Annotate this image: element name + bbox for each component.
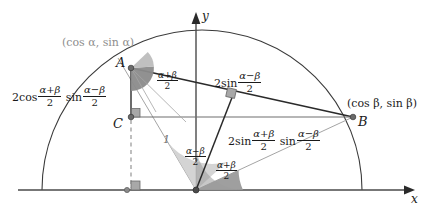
angle-origin-inner-label: α+β2: [215, 160, 238, 182]
segment-AC-length-label: 2cosα+β2 sinα−β2: [12, 84, 107, 108]
perp-frac2: α−β2: [297, 128, 320, 152]
angle-origin-outer-label: α−β2: [184, 146, 207, 168]
angle-origin-outer-num: α−β: [185, 146, 206, 157]
ac-fn2: sin: [66, 91, 82, 104]
x-axis-label: x: [411, 193, 418, 205]
ab-coef: 2: [214, 77, 221, 90]
perpendicular-length-label: 2sinα+β2 sinα−β2: [228, 128, 321, 152]
perp-coef: 2: [228, 135, 235, 148]
ac-fn1: cos: [19, 91, 37, 104]
point-B-label: B: [358, 115, 368, 128]
angle-origin-outer-frac: α−β2: [185, 146, 206, 168]
radius-length-label: 1: [163, 134, 170, 145]
ab-fn1: sin: [221, 77, 237, 90]
ac-coef: 2: [12, 91, 19, 104]
angle-A-frac: α+β2: [157, 70, 178, 92]
perp-frac1: α+β2: [252, 128, 275, 152]
ab-frac1: α−β2: [238, 70, 261, 94]
ac-frac2-num: α−β: [83, 84, 106, 97]
angle-origin-inner-den: 2: [216, 171, 237, 181]
origin-dot: [193, 187, 199, 193]
ac-frac1-den: 2: [38, 97, 61, 109]
ac-frac1: α+β2: [38, 84, 61, 108]
perp-frac2-den: 2: [297, 141, 320, 153]
angle-origin-inner-frac: α+β2: [216, 160, 237, 182]
ab-frac1-num: α−β: [238, 70, 261, 83]
angle-A-num: α+β: [157, 70, 178, 81]
point-A-dot: [128, 65, 134, 71]
chord-AB-length-label: 2sinα−β2: [214, 70, 262, 94]
ac-frac1-num: α+β: [38, 84, 61, 97]
angle-wedge-at-A-upper: [131, 52, 154, 68]
ac-frac2: α−β2: [83, 84, 106, 108]
perp-fn1: sin: [235, 135, 251, 148]
point-C-label: C: [113, 117, 123, 130]
perp-frac2-num: α−β: [297, 128, 320, 141]
angle-at-A-label: α+β2: [156, 70, 179, 92]
angle-A-den: 2: [157, 81, 178, 91]
y-axis-arrowhead: [192, 12, 201, 24]
right-angle-marker-xaxis: [131, 181, 140, 190]
foot-point-dot: [124, 187, 129, 192]
point-C-dot: [128, 114, 134, 120]
geometry-figure: (cos α, sin α) A (cos β, sin β) B C y x …: [0, 0, 427, 218]
y-axis-label: y: [202, 10, 209, 22]
point-A-label: A: [116, 56, 125, 69]
angle-origin-inner-num: α+β: [216, 160, 237, 171]
point-B-coordinate-label: (cos β, sin β): [347, 98, 417, 109]
perp-frac1-den: 2: [252, 141, 275, 153]
perp-fn2: sin: [280, 135, 296, 148]
angle-origin-outer-den: 2: [185, 157, 206, 167]
ac-frac2-den: 2: [83, 97, 106, 109]
point-B-dot: [350, 114, 356, 120]
perp-frac1-num: α+β: [252, 128, 275, 141]
point-A-coordinate-label: (cos α, sin α): [62, 37, 134, 48]
ab-frac1-den: 2: [238, 83, 261, 95]
